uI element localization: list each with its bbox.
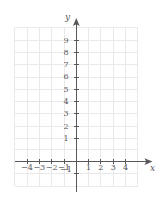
x-tick-label-negative-3: −3 — [33, 164, 45, 172]
y-tick-label-6: 6 — [60, 73, 72, 81]
x-tick-label-negative-1: −1 — [58, 164, 70, 172]
x-tick-label-negative-2: −2 — [46, 164, 58, 172]
y-tick-label-8: 8 — [60, 49, 72, 57]
x-axis-label: x — [150, 164, 155, 173]
y-axis-label: y — [65, 13, 70, 22]
y-tick-label-1: 1 — [60, 135, 72, 143]
x-tick-label-negative-4: −4 — [21, 164, 33, 172]
y-tick-label-7: 7 — [60, 61, 72, 69]
y-tick-label-5: 5 — [60, 86, 72, 94]
x-tick-label-4: 4 — [120, 164, 132, 172]
y-tick-label-4: 4 — [60, 98, 72, 106]
x-tick-label-3: 3 — [107, 164, 119, 172]
y-tick-label-9: 9 — [60, 37, 72, 45]
x-tick-label-2: 2 — [95, 164, 107, 172]
y-tick-label-3: 3 — [60, 110, 72, 118]
x-tick-label-1: 1 — [83, 164, 95, 172]
coordinate-plane-figure: 9 8 7 6 5 4 3 2 1 −1 −4 −3 −2 −1 1 2 3 4… — [0, 0, 164, 201]
y-tick-label-2: 2 — [60, 123, 72, 131]
